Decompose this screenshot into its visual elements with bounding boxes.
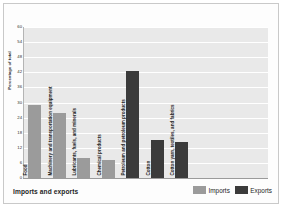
legend-item[interactable]: Exports [235, 186, 272, 194]
chart-legend: ImportsExports [193, 186, 272, 194]
y-tick-label: 54 [8, 40, 22, 44]
bar-category-label: Cotton yarn, textiles, and fabrics [171, 105, 176, 176]
legend-label: Imports [209, 187, 230, 194]
bar-category-label: Machinery and transportation equipment [49, 87, 54, 176]
y-tick-label: 30 [8, 100, 22, 104]
y-axis-ticks: 06121824303642485460 [8, 24, 22, 180]
y-tick-label: 24 [8, 115, 22, 119]
chart-title: Imports and exports [13, 188, 78, 195]
y-tick-label: 0 [8, 176, 22, 180]
chart-figure: Percentage of total 06121824303642485460… [0, 0, 282, 207]
y-tick-label: 48 [8, 55, 22, 59]
y-tick-label: 60 [8, 25, 22, 29]
y-tick-label: 42 [8, 70, 22, 74]
bar-group: FoodMachinery and transportation equipme… [23, 27, 268, 178]
bar-category-label: Food [24, 165, 29, 176]
bar-slot [151, 27, 164, 178]
bar-slot [28, 27, 41, 178]
bar[interactable] [151, 140, 164, 178]
bar-slot [126, 27, 139, 178]
legend-swatch [235, 186, 248, 194]
bar-category-label: Lubricants, fuels, and minerals [73, 108, 78, 176]
bar[interactable] [53, 113, 66, 178]
legend-label: Exports [250, 187, 272, 194]
legend-item[interactable]: Imports [193, 186, 230, 194]
bar-category-label: Chemical products [98, 135, 103, 176]
y-tick-label: 36 [8, 85, 22, 89]
bar-category-label: Petroleum and petroleum products [122, 100, 127, 176]
y-tick-label: 6 [8, 161, 22, 165]
bar[interactable] [77, 158, 90, 178]
bar[interactable] [102, 160, 115, 178]
bar[interactable] [126, 71, 139, 178]
legend-swatch [193, 186, 206, 194]
bar[interactable] [28, 105, 41, 178]
bar-slot [77, 27, 90, 178]
bar-slot [102, 27, 115, 178]
bar[interactable] [175, 142, 188, 178]
bar-slot [53, 27, 66, 178]
bar-slot [175, 27, 188, 178]
x-axis-line [23, 178, 268, 179]
y-tick-label: 12 [8, 146, 22, 150]
y-tick-label: 18 [8, 131, 22, 135]
bar-category-label: Cotton [147, 161, 152, 176]
